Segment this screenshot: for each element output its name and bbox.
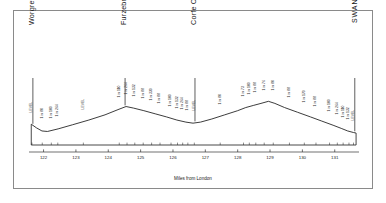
gradient-label: 1 in 100: [49, 106, 52, 118]
gradient-label: 1 in 88: [141, 88, 144, 98]
gradient-label: 1 in 264: [335, 103, 338, 115]
gradient-label: LEVEL: [30, 102, 33, 113]
gradient-label: 1 in 88: [254, 83, 257, 93]
gradient-label: 1 in 170: [302, 91, 305, 103]
gradient-label: 1 in 76: [262, 80, 265, 90]
gradient-label: LEVEL: [81, 99, 84, 110]
gradient-label: 1 in 110: [117, 85, 120, 97]
x-axis-tick-label: 129: [266, 155, 273, 160]
gradient-label: LEVEL: [351, 110, 354, 121]
station-label: Worgret Junction: [27, 0, 36, 25]
x-axis-tick-label: 125: [137, 155, 144, 160]
gradient-profile-figure: Worgret JunctionFurzebrookCorfe CastleSW…: [0, 0, 386, 203]
x-axis-tick-label: 128: [234, 155, 241, 160]
gradient-label: 1 in 88: [158, 93, 161, 103]
gradient-label: 1 in 88: [314, 97, 317, 107]
x-axis-tick-label: 122: [40, 155, 47, 160]
x-axis-tick-label: 127: [202, 155, 209, 160]
gradient-label: 1 in 264: [56, 105, 59, 117]
x-axis-tick-label: 126: [169, 155, 176, 160]
gradient-label: 1 in 330: [150, 89, 153, 101]
x-axis-title: Miles from London: [0, 176, 386, 181]
gradient-label: 1 in 132: [133, 84, 136, 96]
station-label: SWANAGE: [351, 0, 358, 23]
gradient-label: 1 in 88: [186, 100, 189, 110]
gradient-label: 1 in 264: [181, 97, 184, 109]
x-axis-tick-label: 130: [299, 155, 306, 160]
gradient-label: 1 in 100: [247, 82, 250, 94]
x-axis-tick-label: 131: [331, 155, 338, 160]
gradient-label: 1 in 110: [341, 105, 344, 117]
gradient-label: 1 in 100: [169, 94, 172, 106]
gradient-label: LEVEL: [192, 100, 195, 111]
gradient-label: 1 in 264: [125, 83, 128, 95]
gradient-label: 1 in 80: [218, 94, 221, 104]
x-axis-tick-label: 124: [105, 155, 112, 160]
gradient-label: 1 in 88: [287, 87, 290, 97]
x-axis-tick-label: 123: [72, 155, 79, 160]
gradient-label: 1 in 132: [175, 96, 178, 108]
station-label: Corfe Castle: [189, 0, 198, 25]
gradient-label: 1 in 80: [271, 81, 274, 91]
gradient-label: 1 in 100: [328, 100, 331, 112]
gradient-label: 1 in 73: [241, 86, 244, 96]
gradient-label: 1 in 80: [40, 109, 43, 119]
station-label: Furzebrook: [119, 0, 128, 25]
